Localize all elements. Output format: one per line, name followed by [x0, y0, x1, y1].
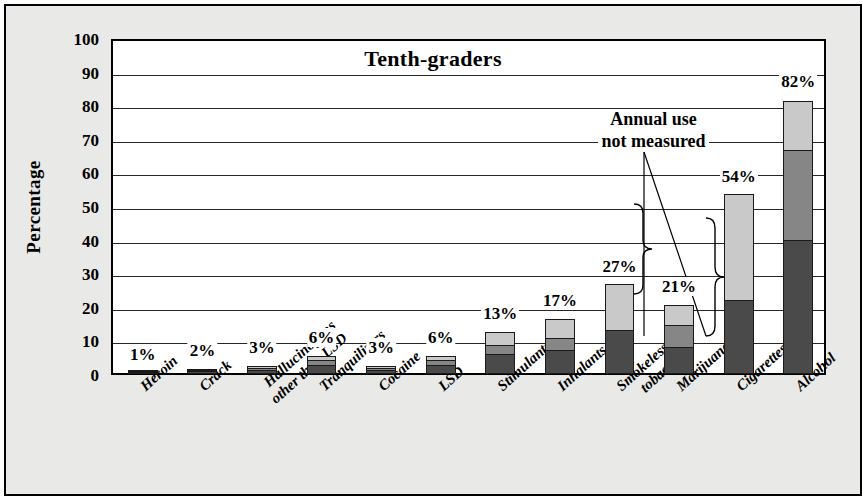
bar-cocaine[interactable] — [366, 366, 396, 373]
bar-segment-0 — [664, 347, 694, 374]
bar-segment-0 — [426, 365, 456, 374]
bar-segment-0 — [247, 370, 277, 374]
bar-smokeless-tobacco[interactable] — [605, 284, 635, 373]
gridline-90 — [113, 75, 824, 76]
bar-value-label-stimulants: 13% — [481, 304, 519, 324]
y-tick-label-90: 90 — [53, 64, 99, 81]
bar-value-label-lsd: 6% — [426, 328, 456, 348]
y-tick-label-40: 40 — [53, 232, 99, 249]
gridline-40 — [113, 243, 824, 244]
y-tick-label-30: 30 — [53, 266, 99, 283]
bar-cigarettes[interactable] — [724, 194, 754, 373]
bar-segment-0 — [724, 300, 754, 374]
bar-value-label-hallucinogens-other-than-lsd: 3% — [247, 338, 277, 358]
bar-segment-0 — [485, 354, 515, 374]
bar-marijuana[interactable] — [664, 305, 694, 373]
bar-segment-2 — [664, 305, 694, 325]
y-tick-label-80: 80 — [53, 98, 99, 115]
bar-segment-2 — [605, 284, 635, 331]
y-tick-label-0: 0 — [53, 367, 99, 384]
y-axis-title: Percentage — [20, 39, 48, 375]
gridline-50 — [113, 209, 824, 210]
bar-crack[interactable] — [187, 369, 217, 373]
bar-value-label-cocaine: 3% — [366, 338, 396, 358]
bar-segment-1 — [664, 325, 694, 349]
bar-value-label-smokeless-tobacco: 27% — [600, 257, 638, 277]
y-tick-label-20: 20 — [53, 299, 99, 316]
bar-value-label-marijuana: 21% — [660, 277, 698, 297]
bar-value-label-heroin: 1% — [128, 345, 158, 365]
annotation-annual-use-not-measured: Annual use not measured — [561, 109, 746, 153]
bar-stimulants[interactable] — [485, 332, 515, 373]
bar-segment-2 — [545, 319, 575, 339]
bar-segment-0 — [783, 240, 813, 374]
bar-heroin[interactable] — [128, 370, 158, 373]
bar-alcohol[interactable] — [783, 101, 813, 374]
bar-segment-2 — [724, 194, 754, 302]
y-tick-label-50: 50 — [53, 199, 99, 216]
bar-segment-2 — [485, 332, 515, 345]
bar-segment-0 — [545, 350, 575, 374]
bar-segment-0 — [307, 365, 337, 374]
bar-lsd[interactable] — [426, 356, 456, 373]
bar-segment-0 — [128, 372, 158, 374]
y-tick-label-60: 60 — [53, 165, 99, 182]
bar-value-label-tranquilizers: 6% — [307, 328, 337, 348]
gridline-20 — [113, 310, 824, 311]
bar-inhalants[interactable] — [545, 319, 575, 373]
y-tick-label-100: 100 — [53, 31, 99, 48]
bar-segment-2 — [783, 101, 813, 151]
gridline-60 — [113, 175, 824, 176]
plot-area: 1%2%3%6%3%6%13%17%27%21%54%82% — [111, 39, 826, 375]
bar-segment-1 — [783, 150, 813, 241]
bar-value-label-alcohol: 82% — [779, 72, 817, 92]
gridline-30 — [113, 276, 824, 277]
y-axis-title-text: Percentage — [23, 160, 45, 253]
bar-tranquilizers[interactable] — [307, 356, 337, 373]
y-tick-label-70: 70 — [53, 131, 99, 148]
bar-segment-0 — [187, 371, 217, 374]
bar-value-label-crack: 2% — [188, 341, 218, 361]
bar-value-label-inhalants: 17% — [541, 291, 579, 311]
bar-value-label-cigarettes: 54% — [720, 167, 758, 187]
chart-frame: Percentage 0102030405060708090100 1%2%3%… — [4, 4, 862, 496]
bar-hallucinogens-other-than-lsd[interactable] — [247, 366, 277, 373]
annotation-line-1: Annual use — [607, 109, 700, 129]
bar-segment-0 — [366, 370, 396, 374]
annotation-line-2: not measured — [598, 131, 708, 151]
bar-segment-0 — [605, 330, 635, 374]
bar-segment-1 — [545, 338, 575, 351]
y-tick-label-10: 10 — [53, 333, 99, 350]
